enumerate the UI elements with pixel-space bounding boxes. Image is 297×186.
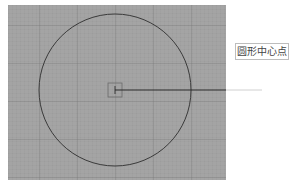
- diagram-overlay: [0, 0, 297, 186]
- center-point-label: 圆形中心点: [235, 43, 289, 60]
